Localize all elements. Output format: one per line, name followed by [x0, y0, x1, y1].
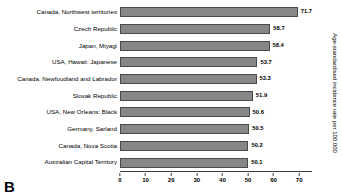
category-label: Australian Capital Territory	[45, 159, 120, 165]
bar[interactable]	[120, 158, 248, 168]
x-tick: 30	[193, 173, 200, 183]
category-label: Canada, Newfoudland and Labrador	[17, 76, 120, 82]
tick-mark	[248, 173, 249, 176]
bar-wrapper: 50.6	[120, 107, 312, 117]
tick-label: 10	[142, 177, 149, 183]
bar[interactable]	[120, 74, 257, 84]
chart-row: Canada, Northwest territories 71.7	[120, 4, 312, 21]
bar[interactable]	[120, 91, 253, 101]
x-axis-line	[120, 171, 312, 172]
bar[interactable]	[120, 24, 270, 34]
chart-row: Japan, Miyagi 58.4	[120, 37, 312, 54]
tick-label: 50	[245, 177, 252, 183]
x-tick: 40	[219, 173, 226, 183]
value-label: 50.5	[252, 126, 263, 132]
category-label: Canada, Northwest territories	[37, 9, 120, 15]
x-axis-ticks: 0 10 20 30 40 50 60 70	[120, 173, 312, 187]
value-label: 50.6	[253, 110, 264, 116]
bar-wrapper: 53.7	[120, 57, 312, 67]
tick-mark	[299, 173, 300, 176]
bar-chart-panel: B Canada, Northwest territories 71.7 Cze…	[0, 0, 342, 195]
tick-label: 20	[168, 177, 175, 183]
chart-row: Australian Capital Territory 50.1	[120, 154, 312, 171]
chart-row: Canada, Newfoudland and Labrador 53.3	[120, 71, 312, 88]
value-label: 58.4	[273, 43, 284, 49]
bar-wrapper: 71.7	[120, 7, 312, 17]
bar[interactable]	[120, 141, 248, 151]
category-label: USA, Hawaii: Japanese	[52, 59, 120, 65]
bar[interactable]	[120, 7, 298, 17]
category-label: Czech Republic	[74, 26, 120, 32]
bar-wrapper: 58.7	[120, 24, 312, 34]
category-label: Japan, Miyagi	[79, 43, 120, 49]
tick-mark	[273, 173, 274, 176]
chart-row: Germany, Sarland 50.5	[120, 121, 312, 138]
tick-label: 70	[296, 177, 303, 183]
value-label: 51.9	[256, 93, 267, 99]
x-tick: 50	[245, 173, 252, 183]
value-label: 50.1	[251, 160, 262, 166]
category-label: Germany, Sarland	[67, 126, 120, 132]
bar[interactable]	[120, 41, 270, 51]
chart-row: USA, New Orleans: Black 50.6	[120, 104, 312, 121]
tick-label: 0	[118, 177, 121, 183]
tick-label: 60	[270, 177, 277, 183]
bar-wrapper: 51.9	[120, 91, 312, 101]
tick-mark	[145, 173, 146, 176]
category-label: Canada, Nova Scotia	[59, 143, 120, 149]
x-tick: 0	[118, 173, 121, 183]
x-tick: 10	[142, 173, 149, 183]
bar-wrapper: 53.3	[120, 74, 312, 84]
value-label: 71.7	[301, 9, 312, 15]
value-label: 50.2	[251, 143, 262, 149]
category-label: USA, New Orleans: Black	[47, 109, 121, 115]
bar-wrapper: 50.5	[120, 124, 312, 134]
chart-row: Czech Republic 58.7	[120, 21, 312, 38]
tick-mark	[171, 173, 172, 176]
plot-area: Canada, Northwest territories 71.7 Czech…	[120, 4, 312, 171]
tick-label: 40	[219, 177, 226, 183]
tick-mark	[196, 173, 197, 176]
x-tick: 20	[168, 173, 175, 183]
tick-mark	[120, 173, 121, 176]
value-label: 58.7	[273, 26, 284, 32]
chart-row: Slovak Republic 51.9	[120, 87, 312, 104]
y-axis-title-text: Age-standardised incidence rate per 100 …	[332, 33, 338, 153]
bar-wrapper: 50.2	[120, 141, 312, 151]
x-tick: 70	[296, 173, 303, 183]
value-label: 53.7	[260, 60, 271, 66]
chart-row: USA, Hawaii: Japanese 53.7	[120, 54, 312, 71]
x-tick: 60	[270, 173, 277, 183]
value-label: 53.3	[260, 76, 271, 82]
tick-mark	[222, 173, 223, 176]
bar[interactable]	[120, 107, 250, 117]
bar-wrapper: 50.1	[120, 158, 312, 168]
panel-letter: B	[4, 179, 15, 194]
y-axis-title: Age-standardised incidence rate per 100 …	[329, 18, 341, 168]
chart-row: Canada, Nova Scotia 50.2	[120, 138, 312, 155]
tick-label: 30	[193, 177, 200, 183]
bar[interactable]	[120, 124, 249, 134]
bar-wrapper: 58.4	[120, 41, 312, 51]
category-label: Slovak Republic	[73, 93, 120, 99]
bar[interactable]	[120, 57, 257, 67]
